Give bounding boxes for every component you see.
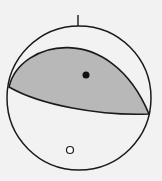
shaded-quadrant: [9, 48, 149, 115]
beachball-diagram: [0, 0, 162, 181]
p-axis-dot: [83, 72, 90, 79]
t-axis-dot: [67, 147, 74, 154]
